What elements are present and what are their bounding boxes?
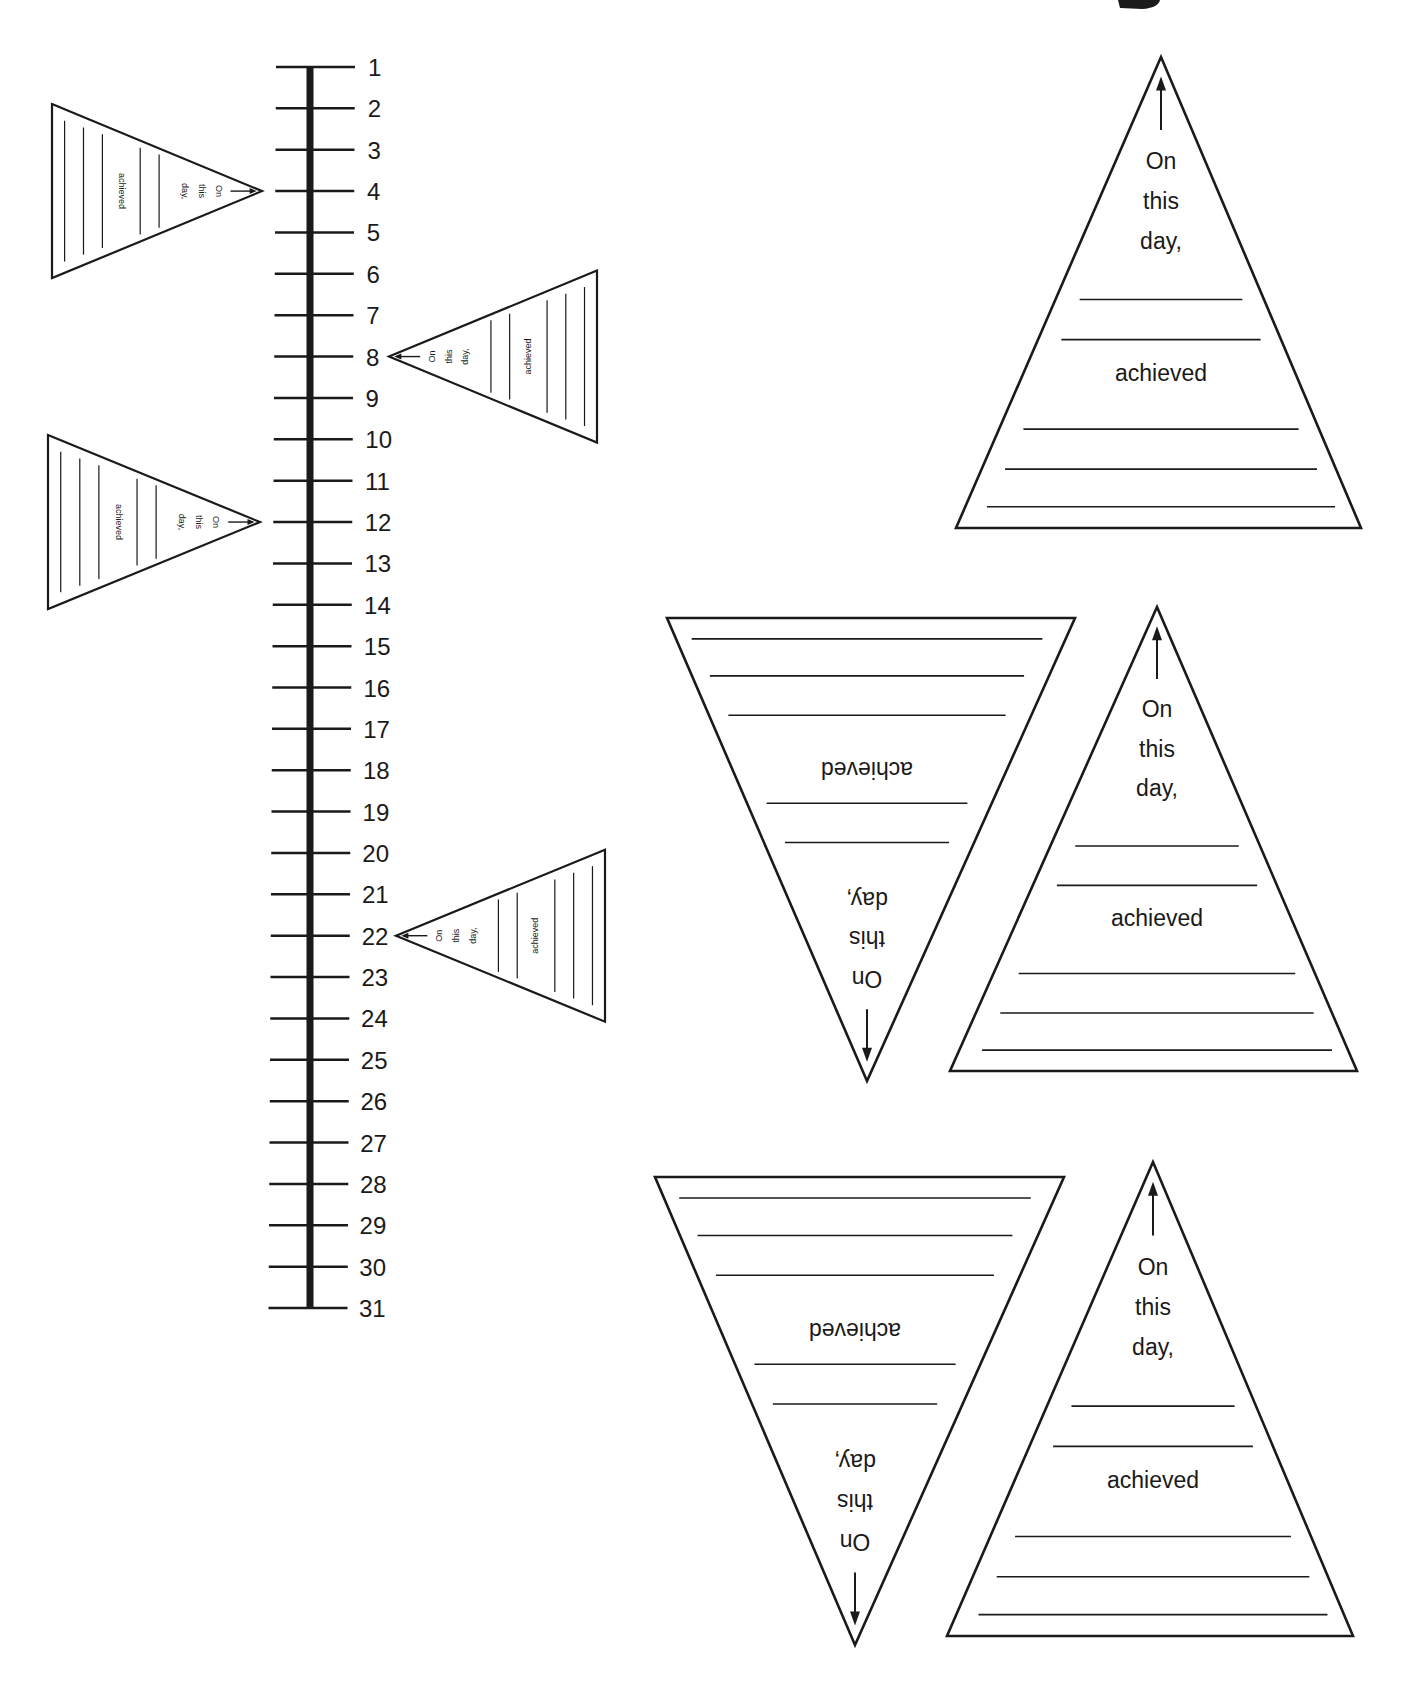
- worksheet-canvas: 1234567891011121314151617181920212223242…: [0, 0, 1404, 1684]
- achieved-text: achieved: [1107, 1467, 1199, 1493]
- timeline-tick-16: 16: [272, 675, 390, 702]
- timeline-tick-18: 18: [272, 757, 390, 784]
- on-text: On: [434, 930, 444, 942]
- flag-day: achievedday,thisOn: [396, 850, 605, 1022]
- tick-label: 25: [361, 1047, 388, 1074]
- tick-label: 2: [368, 95, 381, 122]
- tick-label: 26: [361, 1088, 388, 1115]
- day-text: day,: [177, 514, 187, 530]
- timeline-tick-23: 23: [271, 964, 389, 991]
- day-text: day,: [1140, 228, 1182, 254]
- day-text: day,: [468, 928, 478, 944]
- tick-label: 12: [365, 509, 392, 536]
- flag-day: achievedday,thisOn: [52, 104, 262, 278]
- timeline-tick-5: 5: [275, 219, 380, 246]
- day-text: day,: [180, 183, 190, 199]
- on-text: On: [852, 966, 883, 992]
- tick-label: 15: [364, 633, 391, 660]
- tick-label: 5: [367, 219, 380, 246]
- timeline-tick-27: 27: [270, 1130, 387, 1157]
- day-text: day,: [1132, 1334, 1174, 1360]
- timeline-tick-30: 30: [269, 1254, 386, 1281]
- on-text: On: [214, 185, 224, 197]
- this-text: this: [451, 928, 461, 943]
- timeline-tick-8: 8: [274, 344, 379, 371]
- tick-label: 24: [361, 1005, 388, 1032]
- this-text: this: [194, 515, 204, 530]
- tick-label: 16: [364, 675, 391, 702]
- tick-label: 8: [366, 344, 379, 371]
- timeline-tick-9: 9: [274, 385, 379, 412]
- on-text: On: [1138, 1254, 1169, 1280]
- tick-label: 30: [359, 1254, 386, 1281]
- timeline-tick-17: 17: [272, 716, 390, 743]
- tick-label: 3: [367, 137, 380, 164]
- tick-label: 13: [364, 550, 391, 577]
- tick-label: 17: [363, 716, 390, 743]
- pennant-outline: [956, 57, 1361, 528]
- timeline-tick-1: 1: [276, 54, 381, 81]
- day-text: day,: [460, 348, 470, 364]
- day-text: day,: [834, 1449, 876, 1475]
- tick-label: 20: [362, 840, 389, 867]
- timeline-tick-13: 13: [273, 550, 391, 577]
- tick-label: 31: [359, 1295, 386, 1322]
- cropped-glyph: [1118, 0, 1160, 9]
- tick-label: 27: [360, 1130, 387, 1157]
- tick-label: 18: [363, 757, 390, 784]
- this-text: this: [197, 184, 207, 199]
- timeline-tick-4: 4: [275, 178, 380, 205]
- achieved-text: achieved: [821, 757, 913, 783]
- timeline-tick-29: 29: [269, 1212, 386, 1239]
- on-text: On: [427, 351, 437, 363]
- cutout-pennants: Onthisday,achievedOnthisday,achievedOnth…: [655, 57, 1361, 1645]
- this-text: this: [444, 349, 454, 364]
- timeline-tick-2: 2: [276, 95, 381, 122]
- timeline-tick-25: 25: [270, 1047, 388, 1074]
- tick-label: 19: [363, 799, 390, 826]
- flag-day: achievedday,thisOn: [389, 271, 597, 443]
- this-text: this: [837, 1489, 873, 1515]
- timeline-tick-11: 11: [274, 468, 390, 495]
- timeline-tick-6: 6: [275, 261, 380, 288]
- day-timeline: 1234567891011121314151617181920212223242…: [269, 54, 393, 1322]
- on-text: On: [211, 516, 221, 528]
- achieved-text: achieved: [117, 173, 127, 209]
- tick-label: 22: [362, 923, 389, 950]
- timeline-tick-14: 14: [273, 592, 391, 619]
- timeline-tick-21: 21: [271, 881, 389, 908]
- tick-label: 21: [362, 881, 389, 908]
- timeline-tick-20: 20: [271, 840, 389, 867]
- achieved-text: achieved: [114, 504, 124, 540]
- timeline-tick-26: 26: [270, 1088, 387, 1115]
- tick-label: 10: [365, 426, 392, 453]
- this-text: this: [1135, 1294, 1171, 1320]
- tick-label: 14: [364, 592, 391, 619]
- timeline-tick-12: 12: [273, 509, 391, 536]
- achieved-text: achieved: [1115, 360, 1207, 386]
- timeline-tick-24: 24: [270, 1005, 388, 1032]
- tick-label: 1: [368, 54, 381, 81]
- timeline-tick-10: 10: [274, 426, 392, 453]
- this-text: this: [849, 926, 885, 952]
- this-text: this: [1139, 736, 1175, 762]
- achieved-text: achieved: [809, 1318, 901, 1344]
- timeline-tick-15: 15: [273, 633, 391, 660]
- timeline-tick-19: 19: [272, 799, 390, 826]
- day-text: day,: [1136, 775, 1178, 801]
- on-text: On: [1146, 148, 1177, 174]
- tick-label: 9: [366, 385, 379, 412]
- timeline-tick-28: 28: [269, 1171, 386, 1198]
- on-text: On: [840, 1529, 871, 1555]
- timeline-tick-22: 22: [271, 923, 389, 950]
- flag-day: achievedday,thisOn: [48, 435, 260, 609]
- worksheet-page: 1234567891011121314151617181920212223242…: [0, 0, 1404, 1684]
- timeline-tick-7: 7: [275, 302, 380, 329]
- tick-label: 6: [367, 261, 380, 288]
- tick-label: 11: [365, 468, 390, 495]
- day-text: day,: [846, 887, 888, 913]
- achieved-text: achieved: [530, 918, 540, 954]
- achieved-text: achieved: [523, 339, 533, 375]
- tick-label: 7: [366, 302, 379, 329]
- timeline-tick-3: 3: [276, 137, 381, 164]
